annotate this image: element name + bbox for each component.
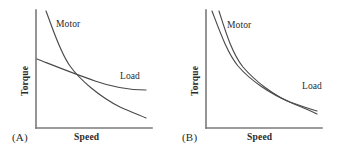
panel-b-motor-label: Motor bbox=[227, 21, 251, 31]
panel-a-y-axis-label: Torque bbox=[21, 66, 31, 96]
panel-b-y-axis-label: Torque bbox=[191, 66, 201, 96]
panel-a: Motor Load Speed Torque (A) bbox=[0, 0, 170, 156]
panel-a-x-axis-label: Speed bbox=[74, 133, 99, 143]
panel-a-load-label: Load bbox=[120, 72, 140, 82]
panel-b-tag: (B) bbox=[182, 132, 197, 143]
panel-b-x-axis-label: Speed bbox=[247, 133, 272, 143]
panel-b: Motor Load Speed Torque (B) bbox=[170, 0, 340, 156]
panel-a-tag: (A) bbox=[12, 132, 28, 143]
panel-a-motor-label: Motor bbox=[56, 20, 80, 30]
panel-b-load-label: Load bbox=[302, 82, 322, 92]
figure-root: Motor Load Speed Torque (A) Motor Load S… bbox=[0, 0, 341, 156]
